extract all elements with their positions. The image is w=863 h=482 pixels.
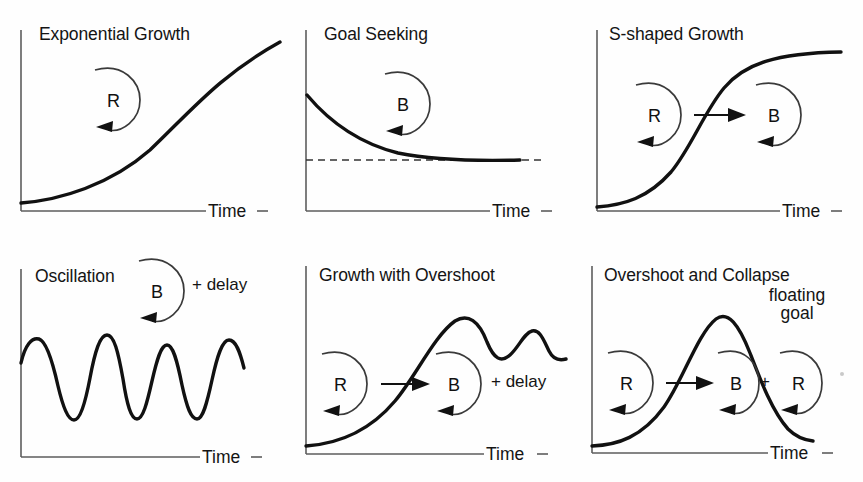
loop-arrowhead bbox=[437, 405, 454, 416]
panel-goal-seeking: Goal Seeking B Time bbox=[288, 0, 576, 241]
loop-label-R: R bbox=[648, 106, 661, 127]
plus-annotation: + bbox=[760, 372, 770, 392]
x-axis-label: Time bbox=[485, 444, 525, 465]
connector-arrowhead bbox=[412, 377, 430, 391]
loop-arrowhead bbox=[96, 121, 113, 132]
goal-seeking-curve bbox=[307, 95, 520, 160]
loop-arrowhead bbox=[140, 312, 157, 323]
loop-connector-arrow bbox=[666, 376, 714, 390]
x-axis-label: Time bbox=[781, 201, 821, 222]
loop-label-B: B bbox=[151, 282, 163, 303]
panel-growth-with-overshoot: Growth with Overshoot R B + delay Time bbox=[288, 241, 576, 482]
loop-label-B: B bbox=[397, 95, 409, 116]
connector-arrowhead bbox=[696, 376, 714, 390]
loop-label-R-right: R bbox=[792, 374, 805, 395]
panel-title: Growth with Overshoot bbox=[319, 265, 495, 286]
loop-label-R: R bbox=[107, 91, 120, 112]
loop-arrowhead bbox=[719, 404, 736, 415]
loop-arrowhead bbox=[757, 136, 774, 147]
x-axis-label: Time bbox=[491, 201, 531, 222]
exponential-growth-curve bbox=[21, 42, 280, 203]
delay-annotation: + delay bbox=[491, 372, 546, 392]
x-axis-label: Time bbox=[201, 447, 241, 468]
loop-label-R-left: R bbox=[620, 374, 633, 395]
loop-arrowhead bbox=[323, 405, 340, 416]
x-axis-label: Time bbox=[769, 443, 809, 464]
loop-label-R: R bbox=[334, 375, 347, 396]
scan-artifact-speck bbox=[840, 372, 844, 376]
panel-s-shaped-growth: S-shaped Growth R B Time bbox=[576, 0, 863, 241]
floating-goal-line-2: goal bbox=[752, 304, 842, 322]
floating-goal-line-1: floating bbox=[752, 286, 842, 304]
floating-goal-annotation: floating goal bbox=[752, 286, 842, 323]
panel-title: Exponential Growth bbox=[39, 24, 190, 45]
loop-arrowhead bbox=[609, 404, 626, 415]
panel-exponential-growth: Exponential Growth R Time bbox=[0, 0, 288, 241]
delay-annotation: + delay bbox=[192, 275, 247, 295]
panel-title: Goal Seeking bbox=[324, 24, 428, 45]
panel-oscillation: Oscillation B + delay Time bbox=[0, 241, 288, 482]
loop-arrowhead bbox=[781, 404, 798, 415]
behavior-over-time-figure: Exponential Growth R Time Goal Seeking B… bbox=[0, 0, 863, 482]
loop-label-B: B bbox=[448, 375, 460, 396]
s-shaped-growth-curve bbox=[597, 52, 841, 207]
panel-title: S-shaped Growth bbox=[609, 24, 744, 45]
loop-label-B: B bbox=[768, 106, 780, 127]
panel-title: Overshoot and Collapse bbox=[604, 265, 790, 286]
loop-label-B: B bbox=[730, 374, 742, 395]
x-axis-label: Time bbox=[207, 201, 247, 222]
loop-arrowhead bbox=[637, 136, 654, 147]
panel-overshoot-and-collapse: Overshoot and Collapse floating goal R B… bbox=[576, 241, 863, 482]
connector-arrowhead bbox=[728, 108, 746, 122]
panel-title: Oscillation bbox=[35, 266, 115, 287]
loop-arrowhead bbox=[386, 125, 403, 136]
oscillation-curve bbox=[21, 335, 244, 420]
